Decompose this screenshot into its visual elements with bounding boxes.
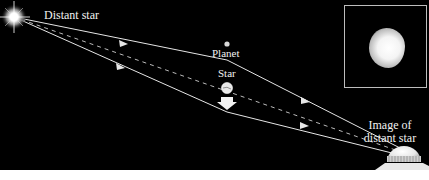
image-label-line1: Image of xyxy=(355,119,425,132)
planet-icon xyxy=(224,41,229,46)
arrow-icon xyxy=(300,122,309,129)
image-of-distant-star-label: Image of distant star xyxy=(355,119,425,144)
distant-star-image-inset xyxy=(344,5,427,88)
image-label-line2: distant star xyxy=(355,132,425,145)
blurred-star-image xyxy=(369,28,405,68)
arrow-icon xyxy=(301,97,310,104)
star-label: Star xyxy=(218,68,236,80)
lens-star-icon xyxy=(222,83,233,94)
distant-star-label: Distant star xyxy=(44,9,99,22)
distant-star-icon xyxy=(0,1,30,33)
telescope-dome-icon xyxy=(375,146,429,170)
microlensing-diagram: Distant star Planet Star Image of distan… xyxy=(0,0,429,170)
arrow-icon xyxy=(119,40,128,47)
planet-label: Planet xyxy=(212,48,240,60)
motion-down-arrow-icon xyxy=(217,97,237,110)
